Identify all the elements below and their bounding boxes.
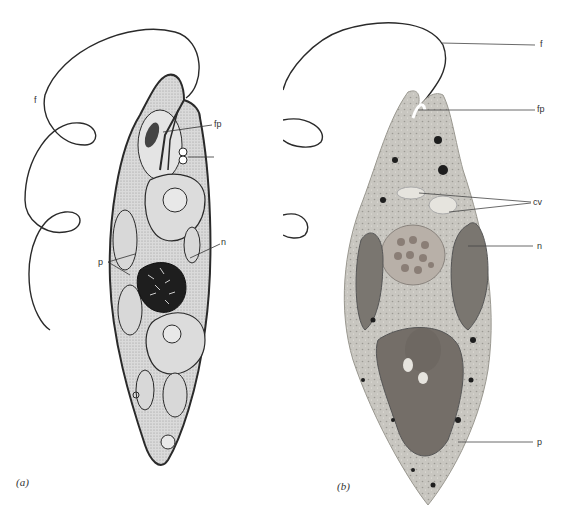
label-flagellum-b: f bbox=[540, 40, 543, 49]
panel-label-b: (b) bbox=[337, 480, 350, 492]
label-plastid-b: p bbox=[537, 438, 542, 447]
panel-label-a: (a) bbox=[16, 476, 29, 488]
panel-a-drawing: f fp n p (a) bbox=[0, 0, 283, 521]
label-nucleus-b: n bbox=[537, 242, 542, 251]
flagellum bbox=[283, 23, 446, 115]
euglena-micrograph bbox=[283, 0, 566, 521]
label-plastids-a: p bbox=[98, 258, 103, 267]
label-flagellum-a: f bbox=[34, 96, 37, 105]
label-flagellar-pocket-b: fp bbox=[537, 105, 545, 114]
panel-b-micrograph: f fp cv n p (b) bbox=[283, 0, 566, 521]
label-flagellar-pocket-a: fp bbox=[214, 120, 222, 129]
euglena-drawing bbox=[0, 0, 283, 521]
label-nucleus-a: n bbox=[221, 238, 226, 247]
label-contractile-vacuole-b: cv bbox=[533, 198, 542, 207]
